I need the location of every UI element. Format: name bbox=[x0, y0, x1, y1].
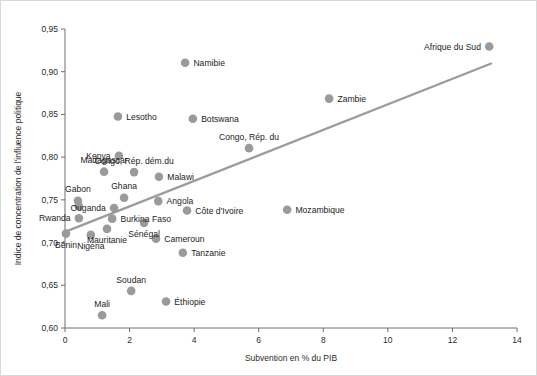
data-point-label: Ouganda bbox=[70, 203, 106, 213]
data-point-marker bbox=[485, 42, 494, 51]
data-point-marker bbox=[162, 297, 171, 306]
data-point-marker bbox=[62, 229, 71, 238]
x-tick-label: 2 bbox=[127, 335, 132, 345]
chart-canvas: 0,600,650,700,750,800,850,900,95 0246810… bbox=[1, 1, 537, 376]
data-point-marker bbox=[127, 287, 136, 296]
axis-titles: Subvention en % du PIBIndice de concentr… bbox=[13, 91, 337, 363]
data-point-marker bbox=[189, 114, 198, 123]
data-point-label: Nigéria bbox=[77, 241, 104, 251]
data-point-marker bbox=[154, 197, 163, 206]
data-point-label: Bénin bbox=[55, 240, 77, 250]
data-point-marker bbox=[179, 249, 188, 258]
y-axis-title: Indice de concentration de l'influence p… bbox=[13, 91, 23, 265]
data-point-label: Gabon bbox=[65, 184, 91, 194]
x-axis-title: Subvention en % du PIB bbox=[245, 353, 337, 363]
x-axis bbox=[65, 328, 517, 332]
x-tick-labels: 02468101214 bbox=[63, 335, 522, 345]
data-point-marker bbox=[245, 144, 254, 153]
data-point-label: Sénégal bbox=[128, 229, 160, 239]
y-tick-labels: 0,600,650,700,750,800,850,900,95 bbox=[41, 24, 58, 333]
y-tick-label: 0,95 bbox=[41, 24, 58, 34]
y-axis bbox=[61, 29, 65, 328]
y-tick-label: 0,65 bbox=[41, 280, 58, 290]
data-point-label: Soudan bbox=[116, 275, 146, 285]
data-point-marker bbox=[120, 193, 129, 202]
x-tick-label: 0 bbox=[63, 335, 68, 345]
data-point-marker bbox=[283, 205, 292, 214]
data-point-marker bbox=[155, 172, 164, 181]
data-point-marker bbox=[181, 58, 190, 67]
data-point-marker bbox=[130, 168, 139, 177]
x-tick-label: 8 bbox=[321, 335, 326, 345]
y-tick-label: 0,85 bbox=[41, 109, 58, 119]
data-point-label: Afrique du Sud bbox=[424, 42, 481, 52]
data-point-marker bbox=[183, 206, 192, 215]
data-point-label: Rwanda bbox=[39, 213, 71, 223]
data-point-label: Malawi bbox=[167, 172, 194, 182]
data-point-marker bbox=[114, 112, 123, 121]
data-point-label: Mali bbox=[94, 299, 110, 309]
regression-trend-line bbox=[65, 64, 491, 232]
x-tick-label: 10 bbox=[383, 335, 393, 345]
data-point-marker bbox=[325, 94, 334, 103]
y-tick-label: 0,80 bbox=[41, 152, 58, 162]
data-point-marker bbox=[98, 311, 107, 320]
data-point-label: Éthiopie bbox=[174, 297, 205, 307]
scatter-chart-figure: 0,600,650,700,750,800,850,900,95 0246810… bbox=[0, 0, 537, 376]
data-point-marker bbox=[108, 214, 117, 223]
x-tick-label: 14 bbox=[512, 335, 522, 345]
data-point-marker bbox=[100, 167, 109, 176]
data-point-label: Lesotho bbox=[126, 112, 157, 122]
y-tick-label: 0,75 bbox=[41, 195, 58, 205]
data-point-label: Mozambique bbox=[295, 205, 344, 215]
trend-line bbox=[65, 64, 491, 232]
data-point-label: Botswana bbox=[201, 114, 239, 124]
x-tick-label: 4 bbox=[192, 335, 197, 345]
data-point-marker bbox=[75, 214, 84, 223]
y-tick-label: 0,90 bbox=[41, 67, 58, 77]
data-point-label: Angola bbox=[167, 196, 194, 206]
data-point-label: Cameroun bbox=[164, 234, 204, 244]
x-tick-label: 6 bbox=[256, 335, 261, 345]
data-point-label: Tanzanie bbox=[191, 248, 226, 258]
data-point-marker bbox=[103, 225, 112, 234]
data-point-label: Côte d'Ivoire bbox=[195, 206, 243, 216]
data-point-label: Namibie bbox=[193, 58, 225, 68]
data-point-label: Congo, Rép. du bbox=[219, 132, 279, 142]
data-point-label: Burkina Faso bbox=[120, 214, 171, 224]
y-tick-label: 0,60 bbox=[41, 323, 58, 333]
data-point-label: Zambie bbox=[337, 94, 366, 104]
data-point-marker bbox=[110, 204, 119, 213]
x-tick-label: 12 bbox=[448, 335, 458, 345]
data-point-label: Madagascar bbox=[80, 155, 127, 165]
data-point-label: Ghana bbox=[111, 181, 137, 191]
